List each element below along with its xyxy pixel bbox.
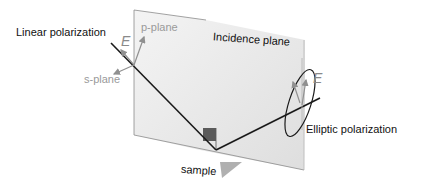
ellipsometry-diagram: Linear polarization p-plane s-plane E In… [0, 0, 424, 189]
linear-polarization-label: Linear polarization [16, 26, 106, 38]
e-vector-left [121, 50, 134, 65]
sample-wedge [220, 162, 242, 178]
elliptic-polarization-label: Elliptic polarization [306, 123, 397, 135]
e-right-label: E [313, 70, 322, 86]
s-plane-label: s-plane [84, 73, 120, 85]
e-left-label: E [121, 33, 130, 49]
p-plane-label: p-plane [141, 21, 178, 33]
sample-label: sample [181, 163, 217, 177]
